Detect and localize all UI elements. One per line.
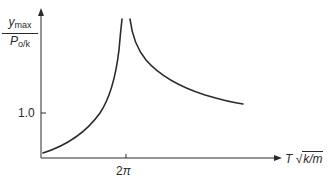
- y-label-numerator: ymax: [2, 16, 38, 34]
- y-axis-label: ymax Po/k: [2, 16, 38, 51]
- chart-canvas: [0, 0, 329, 182]
- y-label-denominator: Po/k: [2, 34, 38, 51]
- y-axis-arrow-icon: [38, 8, 44, 16]
- curve-right-branch: [130, 19, 243, 104]
- y-tick-label: 1.0: [18, 106, 35, 120]
- x-axis-arrow-icon: [274, 155, 282, 161]
- x-tick-label: 2π: [116, 164, 131, 178]
- curve-left-branch: [43, 19, 122, 153]
- x-axis-label: T √k/m: [285, 152, 323, 166]
